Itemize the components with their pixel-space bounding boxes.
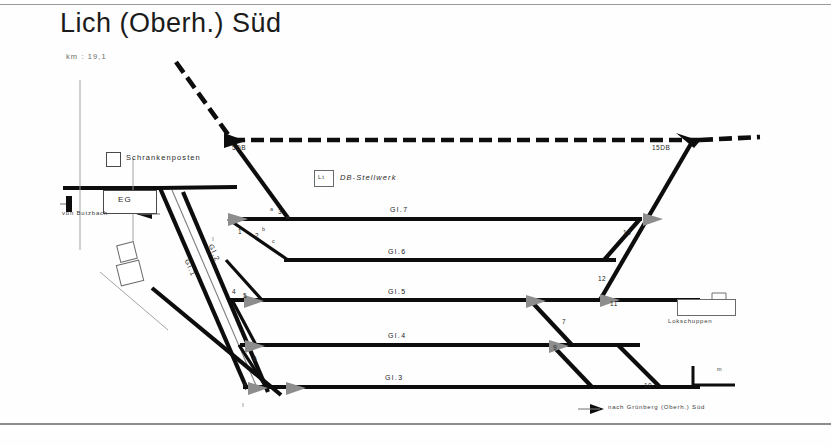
turnout-label-1: 1: [238, 228, 242, 235]
turnout-label-11: 11: [610, 300, 618, 307]
signal-box-code-label: Lt: [318, 174, 325, 180]
station-building-label: EG: [118, 195, 132, 204]
turnout-label-13: 13: [623, 229, 631, 236]
link-5db-to-ladder: [232, 141, 288, 218]
scale-bracket: [693, 366, 735, 385]
db-mainline-outgoing: [700, 137, 760, 140]
turnout-label-5: 5: [243, 292, 247, 299]
track-station-head-east: [158, 187, 237, 188]
scale-unit-label: m: [717, 366, 722, 372]
turnout-label-6: 6: [253, 355, 257, 362]
link-gl4-gl3-east: [552, 345, 592, 387]
loco-shed-box: [677, 299, 736, 316]
link-gl7-gl6: [228, 219, 288, 260]
track-label-gl5: Gl.5: [388, 288, 406, 295]
track-label-gl4: Gl.4: [388, 332, 406, 339]
turnout-label-9: 9: [553, 344, 557, 351]
track-label-gl7: Gl.7: [390, 206, 408, 213]
branch-mark-b: b: [262, 226, 265, 232]
turnout-label-15db: 15DB: [652, 144, 670, 151]
turnout-label-12: 12: [598, 275, 606, 282]
track-label-gl3: Gl.3: [385, 374, 403, 381]
direction-to-gruenberg: nach Grünberg (Oberh.) Süd: [608, 404, 705, 410]
track-geometry: [0, 0, 831, 446]
crossing-keeper-post-symbol: [106, 152, 121, 167]
turnout-label-2: 2: [255, 232, 259, 239]
turnout-label-5db: 5DB: [232, 144, 246, 151]
direction-from-butzbach: von Butzbach: [62, 210, 108, 216]
db-mainline-incoming: [176, 62, 232, 140]
turnout-label-10: 10: [644, 382, 652, 389]
loco-shed-label: Lokschuppen: [668, 318, 713, 324]
turnout-label-7: 7: [562, 318, 566, 325]
frog-10: [286, 382, 306, 395]
branch-mark-c: c: [272, 238, 275, 244]
branch-mark-d: d: [286, 214, 289, 220]
turnout-label-4: 4: [232, 288, 236, 295]
track-diagram-sheet: Lich (Oberh.) Süd km : 19,1: [0, 0, 831, 446]
turnout-label-8: 8: [243, 381, 247, 388]
frog-13: [643, 213, 663, 226]
signal-box-label: DB-Stellwerk: [340, 173, 397, 182]
track-label-gl6: Gl.6: [388, 248, 406, 255]
crossing-keeper-post-label: Schrankenposten: [126, 153, 201, 162]
turnout-label-3: 3: [278, 208, 282, 215]
branch-mark-a: a: [270, 206, 273, 212]
link-gl3-east-ramp: [618, 345, 660, 387]
